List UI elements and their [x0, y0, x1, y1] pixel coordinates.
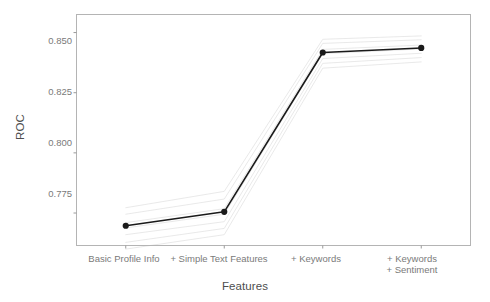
cv-fold-lines-group: [126, 36, 422, 249]
data-point-marker: [123, 223, 129, 229]
cv-fold-line: [126, 62, 422, 249]
y-tick-label-3: 0.775: [12, 188, 72, 199]
y-tick-label-1: 0.825: [12, 86, 72, 97]
y-tick-label-0: 0.850: [12, 35, 72, 46]
data-point-marker: [221, 209, 227, 215]
roc-features-line-chart: 0.850 0.825 0.800 0.775 Basic Profile In…: [0, 0, 490, 302]
data-point-marker: [418, 45, 424, 51]
x-tick-label-3-line2: + Sentiment: [342, 264, 482, 276]
cv-fold-line: [126, 49, 422, 228]
data-point-marker: [320, 49, 326, 55]
mean-line-group: [123, 45, 425, 229]
x-axis-title: Features: [0, 280, 490, 292]
x-tick-label-3: + Keywords: [342, 253, 482, 265]
cv-fold-line: [126, 40, 422, 214]
mean-roc-line: [126, 48, 422, 226]
y-axis-title: ROC: [14, 97, 26, 157]
cv-fold-line: [126, 58, 422, 243]
